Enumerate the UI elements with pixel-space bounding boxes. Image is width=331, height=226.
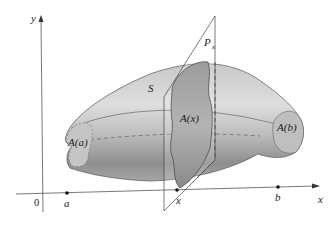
solid-label: S (148, 82, 154, 94)
point-x-label: x (175, 194, 181, 206)
x-axis-arrow-icon (312, 184, 320, 189)
point-a (65, 191, 69, 195)
origin-label: 0 (34, 197, 39, 208)
point-x (175, 188, 179, 192)
y-axis-label: y (30, 12, 36, 24)
label-a-a: A(a) (67, 136, 88, 149)
point-b (276, 185, 280, 189)
point-b-label: b (275, 191, 281, 203)
y-axis-arrow-icon (39, 15, 44, 22)
label-a-x: A(x) (179, 112, 199, 125)
plane-label: P (203, 36, 211, 48)
y-axis (41, 20, 43, 212)
point-a-label: a (64, 197, 70, 209)
x-axis-label: x (317, 193, 323, 205)
solid-cross-section-diagram: y A(a) A(x) A(b) S P x x 0 a x b (0, 0, 331, 226)
label-a-b: A(b) (276, 121, 297, 134)
